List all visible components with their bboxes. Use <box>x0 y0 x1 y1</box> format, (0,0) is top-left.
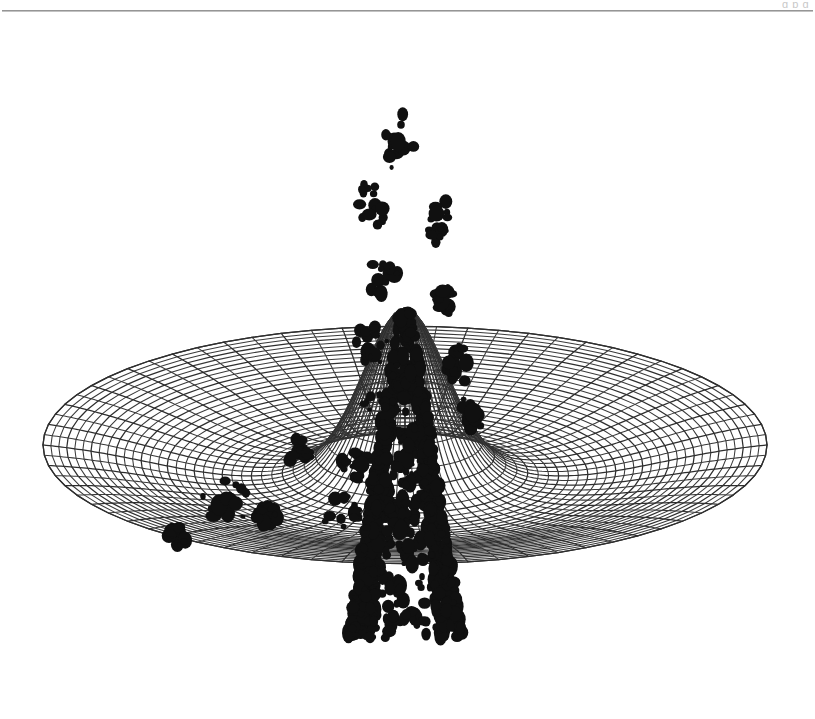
wireframe-surface-plot <box>0 14 815 719</box>
page-canvas: g p g <box>0 0 815 719</box>
figure-container <box>0 14 815 719</box>
header-divider-rule <box>2 10 813 12</box>
page-header-remnant: g p g <box>0 0 815 8</box>
